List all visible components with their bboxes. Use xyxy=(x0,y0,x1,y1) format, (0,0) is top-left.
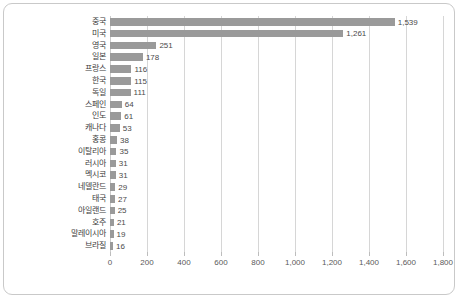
category-label: 호주 xyxy=(92,217,106,229)
bar[interactable] xyxy=(110,65,131,73)
bar-row: 53 xyxy=(110,122,443,134)
category-axis: 중국미국영국일본프랑스한국독일스페인인도캐나다홍콩이탈리아러시아멕시코네델란드태… xyxy=(0,16,106,252)
bar-value-label: 38 xyxy=(120,135,129,146)
bar[interactable] xyxy=(110,242,113,250)
bar-value-label: 21 xyxy=(117,217,126,228)
x-tick-label: 1,600 xyxy=(396,258,416,268)
bar-value-label: 1,539 xyxy=(398,17,418,28)
bar[interactable] xyxy=(110,77,131,85)
x-tick-mark xyxy=(258,252,259,256)
bar-value-label: 251 xyxy=(159,40,172,51)
category-label: 말레이시아 xyxy=(71,228,106,240)
category-label: 네델란드 xyxy=(78,181,106,193)
bar-row: 1,261 xyxy=(110,28,443,40)
bar[interactable] xyxy=(110,124,120,132)
category-label: 독일 xyxy=(92,87,106,99)
bar[interactable] xyxy=(110,207,115,215)
category-label: 이탈리아 xyxy=(78,146,106,158)
bar-row: 115 xyxy=(110,75,443,87)
bar-row: 25 xyxy=(110,205,443,217)
x-tick-label: 1,800 xyxy=(433,258,453,268)
bar[interactable] xyxy=(110,30,343,38)
bar-row: 251 xyxy=(110,40,443,52)
bar-value-label: 31 xyxy=(119,158,128,169)
bar-row: 31 xyxy=(110,169,443,181)
bar[interactable] xyxy=(110,230,114,238)
bar-row: 116 xyxy=(110,63,443,75)
gridline-x xyxy=(443,16,444,252)
x-tick-mark xyxy=(369,252,370,256)
bar-value-label: 111 xyxy=(134,87,146,98)
x-tick-label: 1,000 xyxy=(285,258,305,268)
category-label: 프랑스 xyxy=(85,63,106,75)
chart-figure: 중국미국영국일본프랑스한국독일스페인인도캐나다홍콩이탈리아러시아멕시코네델란드태… xyxy=(0,0,459,299)
x-tick-mark xyxy=(406,252,407,256)
bar[interactable] xyxy=(110,42,156,50)
bar[interactable] xyxy=(110,18,395,26)
bar-row: 31 xyxy=(110,158,443,170)
bar[interactable] xyxy=(110,160,116,168)
bar-row: 111 xyxy=(110,87,443,99)
category-label: 미국 xyxy=(92,28,106,40)
x-tick-mark xyxy=(110,252,111,256)
bar-value-label: 35 xyxy=(119,146,128,157)
category-label: 러시아 xyxy=(85,158,106,170)
bar[interactable] xyxy=(110,53,143,61)
bar-value-label: 27 xyxy=(118,194,127,205)
bar[interactable] xyxy=(110,112,121,120)
category-label: 중국 xyxy=(92,16,106,28)
x-tick-label: 1,400 xyxy=(359,258,379,268)
bar[interactable] xyxy=(110,148,116,156)
category-label: 아일랜드 xyxy=(78,205,106,217)
x-tick-label: 800 xyxy=(251,258,264,268)
x-tick-label: 0 xyxy=(108,258,112,268)
x-tick-label: 1,200 xyxy=(322,258,342,268)
bar-value-label: 31 xyxy=(119,170,128,181)
bar-row: 35 xyxy=(110,146,443,158)
bar-value-label: 115 xyxy=(134,76,147,87)
bar-value-label: 1,261 xyxy=(346,28,366,39)
x-tick-mark xyxy=(184,252,185,256)
bar[interactable] xyxy=(110,183,115,191)
x-tick-label: 600 xyxy=(214,258,227,268)
plot-area: 02004006008001,0001,2001,4001,6001,8001,… xyxy=(110,16,443,252)
category-label: 영국 xyxy=(92,40,106,52)
bar-value-label: 178 xyxy=(146,52,159,63)
bar-row: 29 xyxy=(110,181,443,193)
category-label: 홍콩 xyxy=(92,134,106,146)
x-tick-mark xyxy=(147,252,148,256)
bar-row: 64 xyxy=(110,99,443,111)
x-tick-label: 400 xyxy=(177,258,190,268)
category-label: 태국 xyxy=(92,193,106,205)
category-label: 브라질 xyxy=(85,240,106,252)
bar-row: 38 xyxy=(110,134,443,146)
bar[interactable] xyxy=(110,171,116,179)
bar-value-label: 25 xyxy=(118,205,127,216)
x-tick-mark xyxy=(443,252,444,256)
bar-row: 27 xyxy=(110,193,443,205)
x-tick-label: 200 xyxy=(140,258,153,268)
bar-value-label: 19 xyxy=(117,229,126,240)
bar[interactable] xyxy=(110,195,115,203)
bar-value-label: 116 xyxy=(134,64,147,75)
category-label: 스페인 xyxy=(85,99,106,111)
bar[interactable] xyxy=(110,89,131,97)
category-label: 캐나다 xyxy=(85,122,106,134)
bar-value-label: 64 xyxy=(125,99,134,110)
bar[interactable] xyxy=(110,219,114,227)
x-tick-mark xyxy=(332,252,333,256)
x-tick-mark xyxy=(295,252,296,256)
category-label: 한국 xyxy=(92,75,106,87)
bar-row: 178 xyxy=(110,51,443,63)
category-label: 인도 xyxy=(92,110,106,122)
bar-row: 21 xyxy=(110,217,443,229)
bar-row: 16 xyxy=(110,240,443,252)
category-label: 멕시코 xyxy=(85,169,106,181)
bar[interactable] xyxy=(110,101,122,109)
bar-value-label: 53 xyxy=(123,123,132,134)
bar-row: 19 xyxy=(110,228,443,240)
bar-row: 1,539 xyxy=(110,16,443,28)
bar[interactable] xyxy=(110,136,117,144)
category-label: 일본 xyxy=(92,51,106,63)
bar-value-label: 61 xyxy=(124,111,133,122)
